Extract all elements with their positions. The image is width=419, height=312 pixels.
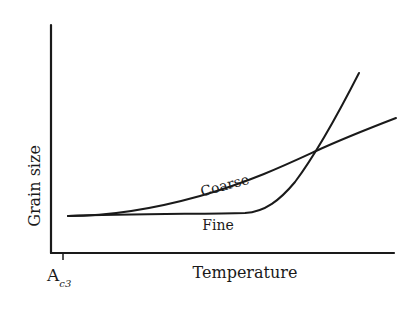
fine-label: Fine — [202, 217, 234, 233]
coarse-curve — [68, 118, 396, 216]
grain-size-chart: Grain size Temperature Ac3 Coarse Fine — [0, 0, 419, 312]
x-axis-label: Temperature — [193, 263, 298, 282]
ac3-label: Ac3 — [46, 265, 71, 289]
coarse-label: Coarse — [199, 171, 251, 199]
ac3-main: A — [46, 265, 60, 285]
y-axis-label: Grain size — [25, 145, 44, 227]
ac3-subscript: c3 — [59, 278, 71, 289]
